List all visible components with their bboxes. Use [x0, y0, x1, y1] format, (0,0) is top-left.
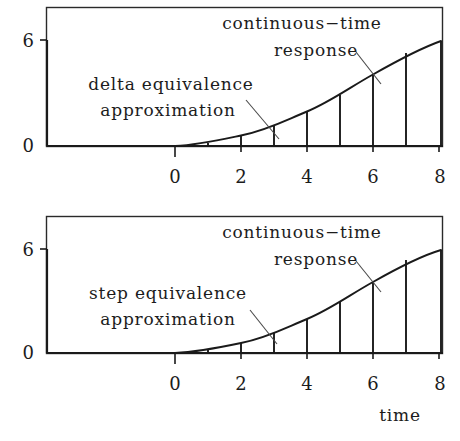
panel-top-xtick-label-2: 2: [235, 166, 246, 187]
panel-top-xtick-label-0: 0: [169, 166, 180, 187]
panel-top-annotation-curve-line2: response: [274, 40, 358, 60]
panel-bottom-xtick-label-0: 0: [169, 373, 180, 394]
panel-top-annotation-curve-line1: continuous−time: [222, 13, 381, 33]
panel-bottom-annotation-curve-line2: response: [274, 249, 358, 269]
panel-top-ytick-label-6: 6: [23, 30, 34, 51]
panel-top-ytick-label-0: 0: [23, 135, 34, 156]
panel-top-xtick-label-6: 6: [367, 166, 378, 187]
panel-bottom-annotation-approx-line1: step equivalence: [89, 283, 247, 303]
panel-bottom-xtick-label-8: 8: [434, 373, 445, 394]
panel-top-annotation-approx-line1: delta equivalence: [88, 74, 253, 94]
panel-bottom-xtick-label-6: 6: [367, 373, 378, 394]
plot-canvas: 6 0 0 2 4 6 8: [0, 0, 460, 441]
x-axis-title: time: [379, 405, 421, 425]
figure-root: 6 0 0 2 4 6 8: [0, 0, 460, 441]
panel-bottom-annotation-curve-line1: continuous−time: [222, 222, 381, 242]
panel-top-annotation-approx-line2: approximation: [100, 100, 235, 120]
panel-top-leader-curve: [356, 52, 381, 84]
panel-bottom-annotation-approx-line2: approximation: [100, 309, 235, 329]
panel-bottom: 6 0 0 2 4 6 8: [23, 217, 446, 426]
panel-bottom-leader-curve: [356, 261, 381, 292]
panel-top-xtick-label-8: 8: [434, 166, 445, 187]
panel-bottom-ytick-label-0: 0: [23, 342, 34, 363]
panel-top: 6 0 0 2 4 6 8: [23, 8, 446, 188]
panel-bottom-xtick-label-4: 4: [301, 373, 312, 394]
panel-bottom-ytick-label-6: 6: [23, 239, 34, 260]
panel-top-xtick-label-4: 4: [301, 166, 312, 187]
panel-bottom-xtick-label-2: 2: [235, 373, 246, 394]
